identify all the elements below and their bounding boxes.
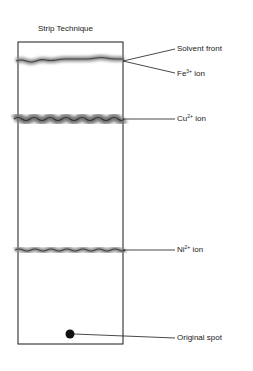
fe-leader bbox=[123, 61, 175, 73]
fe-band bbox=[16, 58, 124, 63]
paper-strip bbox=[18, 42, 123, 344]
fe-ion-label: Fe3+ ion bbox=[177, 68, 205, 78]
original-spot-label: Original spot bbox=[177, 333, 222, 342]
solvent-front-label: Solvent front bbox=[177, 44, 222, 53]
solvent-front-leader bbox=[123, 49, 175, 61]
original-spot-leader bbox=[74, 334, 175, 338]
ni-band bbox=[15, 249, 125, 251]
cu-ion-label: Cu2+ ion bbox=[177, 113, 206, 123]
ni-ion-label: Ni2+ ion bbox=[177, 244, 203, 254]
cu-band bbox=[14, 118, 124, 121]
original-spot-dot bbox=[66, 330, 75, 339]
chromatography-strip-diagram bbox=[0, 0, 253, 371]
